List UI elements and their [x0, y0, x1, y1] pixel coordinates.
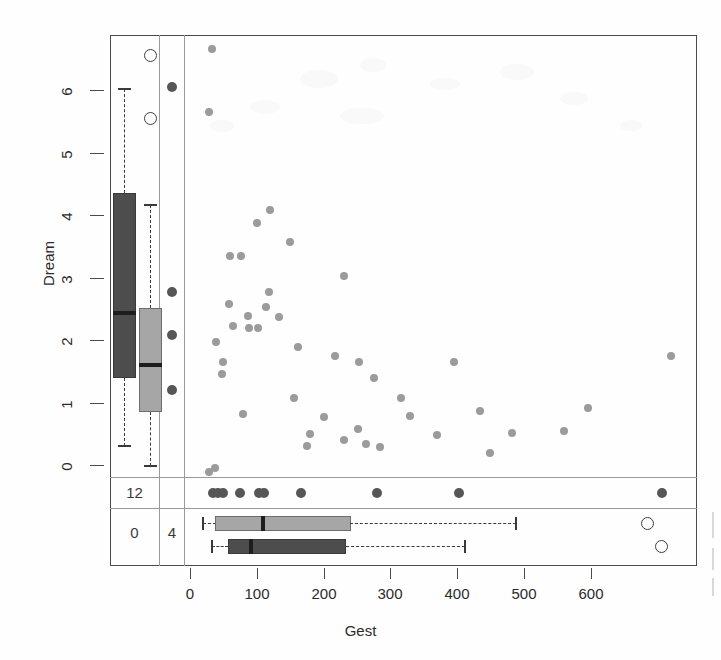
- y-tick-label-5: 5: [58, 150, 75, 158]
- scatter-point: [262, 303, 270, 311]
- scatter-point: [245, 324, 253, 332]
- missing-dream-point: [454, 488, 464, 498]
- scatter-point: [397, 394, 405, 402]
- boxplot-gest-observed-outlier: [641, 517, 654, 530]
- frame-top: [110, 35, 697, 36]
- x-tick-label-100: 100: [232, 585, 282, 602]
- scatter-point: [476, 407, 484, 415]
- y-tickmark-2: [90, 340, 104, 341]
- scatter-point: [362, 440, 370, 448]
- scatter-point: [320, 413, 328, 421]
- y-tickmark-4: [90, 215, 104, 216]
- boxplot-gest-observed-right-whisker: [350, 523, 516, 524]
- chart-figure: Dream 6 5 4 3 2 1 0 Gest 0 100 200 300 4…: [0, 0, 721, 660]
- scatter-point: [254, 324, 262, 332]
- boxplot-gest-missing-outlier: [655, 540, 668, 553]
- scatter-point: [244, 312, 252, 320]
- missing-dream-point: [296, 488, 306, 498]
- x-tickmark-600: [591, 568, 592, 579]
- boxplot-gest-missing-right-cap: [464, 540, 466, 553]
- scatter-point: [294, 343, 302, 351]
- scatter-point: [205, 108, 213, 116]
- scatter-point: [225, 300, 233, 308]
- x-tick-label-600: 600: [566, 585, 616, 602]
- missing-dream-point: [259, 488, 269, 498]
- scatter-point: [584, 404, 592, 412]
- frame-right: [696, 35, 697, 566]
- scatter-point: [303, 442, 311, 450]
- scatter-point: [275, 313, 283, 321]
- x-tickmark-200: [324, 568, 325, 579]
- scatter-point: [253, 219, 261, 227]
- boxplot-dream-missing-lower-whisker: [150, 412, 151, 466]
- scatter-point: [376, 443, 384, 451]
- scatter-point: [290, 394, 298, 402]
- scatter-point: [667, 352, 675, 360]
- scatter-point: [486, 449, 494, 457]
- scatter-point: [226, 252, 234, 260]
- y-tick-label-6: 6: [58, 87, 75, 95]
- x-tick-label-400: 400: [432, 585, 482, 602]
- y-tickmark-1: [90, 403, 104, 404]
- missing-dream-point: [218, 488, 228, 498]
- boxplot-gest-observed-left-cap: [202, 517, 204, 530]
- boxplot-dream-missing-box: [139, 308, 162, 412]
- scatter-point: [208, 45, 216, 53]
- boxplot-dream-observed-box: [113, 193, 136, 378]
- scatter-point: [340, 272, 348, 280]
- boxplot-dream-observed-lower-cap: [118, 445, 131, 447]
- missing-gest-point: [167, 385, 177, 395]
- scatter-point: [237, 252, 245, 260]
- scatter-point: [560, 427, 568, 435]
- x-tick-label-500: 500: [499, 585, 549, 602]
- boxplot-dream-missing-median: [139, 363, 162, 367]
- scatter-point: [331, 352, 339, 360]
- missing-gest-point: [167, 287, 177, 297]
- x-tick-label-300: 300: [365, 585, 415, 602]
- boxplot-dream-observed-upper-cap: [118, 88, 131, 90]
- y-tick-label-4: 4: [58, 212, 75, 220]
- boxplot-gest-observed-right-cap: [515, 517, 517, 530]
- scatter-point: [266, 206, 274, 214]
- boxplot-dream-missing-upper-whisker: [150, 205, 151, 308]
- y-tick-label-0: 0: [58, 462, 75, 470]
- x-tickmark-400: [457, 568, 458, 579]
- scatter-point: [239, 410, 247, 418]
- missing-dream-point: [372, 488, 382, 498]
- missing-dream-point: [657, 488, 667, 498]
- x-tickmark-300: [390, 568, 391, 579]
- scatter-point: [212, 338, 220, 346]
- y-tickmark-6: [90, 90, 104, 91]
- boxplot-dream-missing-upper-cap: [144, 204, 157, 206]
- scatter-point: [340, 436, 348, 444]
- scatter-point: [286, 238, 294, 246]
- scatter-point: [354, 425, 362, 433]
- frame-bottom: [110, 565, 697, 566]
- y-tick-label-2: 2: [58, 337, 75, 345]
- boxplot-dream-missing-lower-cap: [144, 465, 157, 467]
- count-gest-missing: 4: [159, 524, 185, 541]
- boxplot-dream-missing-outlier-low: [144, 112, 157, 125]
- x-axis-title: Gest: [0, 622, 721, 639]
- scatter-point: [218, 370, 226, 378]
- separator-rug-row-top: [110, 477, 697, 478]
- scatter-point: [265, 288, 273, 296]
- y-tickmark-3: [90, 278, 104, 279]
- boxplot-gest-missing-left-whisker: [212, 546, 228, 547]
- missing-dream-point: [235, 488, 245, 498]
- y-axis-title: Dream: [40, 224, 57, 304]
- missing-gest-point: [167, 330, 177, 340]
- scatter-point: [433, 431, 441, 439]
- separator-missing-strip: [184, 35, 185, 566]
- scatter-point: [219, 358, 227, 366]
- separator-vertical-boxplot-strip: [159, 35, 160, 566]
- x-tickmark-100: [257, 568, 258, 579]
- separator-rug-row-bottom: [110, 508, 697, 509]
- boxplot-gest-missing-box: [228, 539, 346, 554]
- boxplot-gest-observed-box: [215, 516, 351, 531]
- missing-gest-point: [167, 82, 177, 92]
- boxplot-gest-missing-right-whisker: [346, 546, 465, 547]
- y-tick-label-3: 3: [58, 275, 75, 283]
- scatter-point: [205, 468, 213, 476]
- boxplot-gest-observed-median: [261, 516, 265, 531]
